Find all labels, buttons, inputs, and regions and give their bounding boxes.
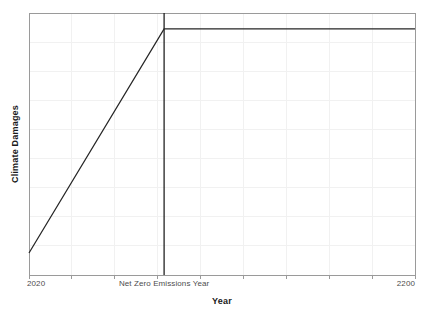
- x-axis-title: Year: [212, 296, 232, 306]
- chart-figure: 2020 Net Zero Emissions Year 2200 Year C…: [0, 0, 430, 322]
- x-tick-label-start: 2020: [27, 279, 45, 288]
- x-tick-label-end: 2200: [397, 279, 415, 288]
- x-tick-label-net-zero: Net Zero Emissions Year: [119, 279, 209, 288]
- x-axis-ticks: [29, 275, 415, 279]
- chart-canvas: [0, 0, 430, 322]
- plot-background: [29, 13, 415, 275]
- y-axis-title: Climate Damages: [10, 105, 20, 183]
